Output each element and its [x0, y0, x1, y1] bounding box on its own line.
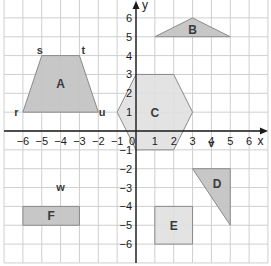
shape-e: E [155, 206, 193, 244]
point-label-w: w [55, 181, 65, 193]
point-label-v: v [208, 137, 215, 149]
y-tick-label: 4 [126, 50, 132, 62]
x-tick-label: −2 [92, 135, 105, 147]
point-label-t: t [81, 44, 85, 56]
shape-c-label: C [151, 106, 160, 120]
y-tick-label: −5 [119, 219, 132, 231]
point-label-s: s [37, 44, 43, 56]
y-tick-label: 5 [126, 31, 132, 43]
shape-a: A [23, 56, 98, 113]
x-tick-label: 2 [171, 135, 177, 147]
x-tick-label: 3 [189, 135, 195, 147]
shape-a-label: A [56, 77, 65, 91]
x-tick-label: 1 [152, 135, 158, 147]
y-axis-arrow-icon [133, 1, 140, 9]
y-tick-label: 3 [126, 68, 132, 80]
y-tick-label: 6 [126, 12, 132, 24]
x-tick-label: −3 [73, 135, 86, 147]
point-label-u: u [99, 106, 106, 118]
x-axis-label: x [257, 134, 263, 148]
x-tick-label: 6 [246, 135, 252, 147]
x-tick-label: −4 [54, 135, 67, 147]
shape-f-label: F [48, 209, 55, 223]
y-tick-label: −2 [119, 163, 132, 175]
shape-e-label: E [170, 219, 178, 233]
y-tick-label: −4 [119, 200, 132, 212]
shape-f: F [23, 206, 80, 225]
x-tick-label: −5 [35, 135, 48, 147]
y-tick-label: −1 [119, 144, 132, 156]
y-tick-label: 2 [126, 87, 132, 99]
point-label-r: r [14, 106, 19, 118]
x-tick-label: −6 [17, 135, 30, 147]
shape-b: B [155, 18, 230, 37]
y-tick-label: 1 [126, 106, 132, 118]
y-tick-label: −3 [119, 182, 132, 194]
shape-d-label: D [213, 177, 222, 191]
y-axis-label: y [142, 0, 148, 12]
x-tick-label: 5 [227, 135, 233, 147]
y-tick-label: −6 [119, 238, 132, 250]
coordinate-grid-diagram: ABCDEF x y −6−5−4−3−2−10123456654321−1−2… [0, 0, 271, 266]
shape-b-label: B [188, 23, 197, 37]
